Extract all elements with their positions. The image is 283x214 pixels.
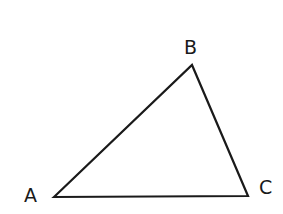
triangle-diagram: A B C (0, 0, 283, 214)
vertex-label-b: B (184, 36, 197, 58)
triangle-svg: A B C (0, 0, 283, 214)
triangle-abc (54, 65, 248, 197)
vertex-label-a: A (24, 184, 37, 206)
vertex-label-c: C (259, 176, 272, 198)
